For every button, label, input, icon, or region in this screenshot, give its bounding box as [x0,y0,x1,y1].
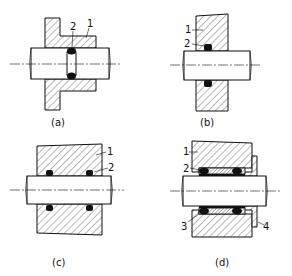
label-d-1: 1 [183,146,189,157]
o-ring-b-bottom [204,80,212,87]
caption-b: (b) [200,117,214,128]
label-b-2: 2 [184,38,190,49]
seal-groove-a [67,52,76,75]
panel-d: 1 2 3 4 (d) [170,141,280,268]
o-ring-c-2-bottom [86,205,93,211]
label-a-1: 1 [87,18,93,29]
caption-a: (a) [51,117,65,128]
label-d-3: 3 [181,221,187,232]
o-ring-d-2-top [232,168,242,175]
o-ring-d-2-bottom [232,208,242,215]
o-ring-c-2-top [86,170,93,176]
label-d-4: 4 [263,221,269,232]
o-ring-c-1-bottom [46,205,53,211]
o-ring-a-top [67,48,76,55]
label-c-2: 2 [108,162,114,173]
o-ring-a-bottom [67,73,76,80]
caption-d: (d) [215,257,229,268]
label-a-2: 2 [70,21,76,32]
panel-c: 1 2 (c) [10,144,124,268]
label-d-2: 2 [183,163,189,174]
caption-c: (c) [52,257,65,268]
panel-a: 2 1 (a) [10,18,120,128]
panel-b: 1 2 (b) [170,14,262,128]
label-c-1: 1 [107,146,113,157]
diagram-canvas: 2 1 (a) 1 2 (b) 1 2 (c) [0,0,292,276]
shaft-b [184,51,250,80]
o-ring-b-top [204,44,212,51]
housing-d-top [192,141,252,172]
o-ring-d-1-bottom [199,208,209,215]
o-ring-d-1-top [199,168,209,175]
o-ring-c-1-top [46,170,53,176]
housing-a-bottom [45,79,96,110]
label-b-1: 1 [185,24,191,35]
